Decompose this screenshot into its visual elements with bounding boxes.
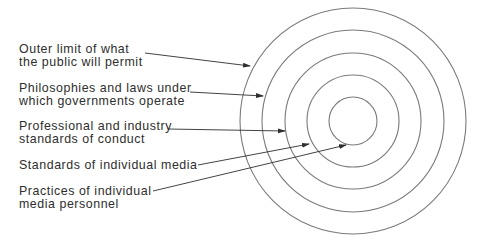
label-philosophies-line2: which governments operate <box>19 95 192 108</box>
label-philosophies-laws: Philosophies and laws under which govern… <box>19 82 192 107</box>
label-professional-line2: standards of conduct <box>19 133 172 146</box>
leader-arrow-1 <box>145 53 250 66</box>
label-philosophies-line1: Philosophies and laws under <box>19 82 192 95</box>
leader-arrow-4 <box>198 144 309 165</box>
ring-circle-2 <box>262 30 444 212</box>
label-media-personnel-practices: Practices of individual media personnel <box>19 185 151 210</box>
leader-arrow-2 <box>190 92 263 96</box>
label-outer-limit-line2: the public will permit <box>19 56 143 69</box>
ring-circle-4 <box>307 75 399 167</box>
label-professional-standards: Professional and industry standards of c… <box>19 120 172 145</box>
label-practices-line2: media personnel <box>19 198 151 211</box>
ring-circle-5 <box>329 97 377 145</box>
leader-arrow-3 <box>168 129 285 131</box>
ring-circle-1 <box>240 8 466 234</box>
label-professional-line1: Professional and industry <box>19 120 172 133</box>
label-individual-media-standards: Standards of individual media <box>19 159 198 172</box>
label-practices-line1: Practices of individual <box>19 185 151 198</box>
rings-group <box>240 8 466 234</box>
label-individual-media-line1: Standards of individual media <box>19 159 198 172</box>
ring-circle-3 <box>285 53 421 189</box>
label-outer-limit-line1: Outer limit of what <box>19 43 143 56</box>
label-outer-limit-public: Outer limit of what the public will perm… <box>19 43 143 68</box>
